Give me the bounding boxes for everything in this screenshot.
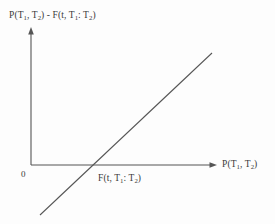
xlabel-sub2: 2 <box>251 163 254 170</box>
ylabel-f-sub2: 2 <box>89 14 92 21</box>
ylabel-p-prefix: P(T <box>9 10 24 20</box>
crossing-sub2: 2 <box>134 177 137 184</box>
xlabel-prefix: P(T <box>222 159 237 169</box>
x-intercept-annotation: F(t, T1: T2) <box>98 174 141 184</box>
y-axis-label: P(T1, T2) - F(t, T1: T2) <box>9 11 96 21</box>
payoff-line <box>40 53 212 215</box>
origin-label: 0 <box>21 170 26 179</box>
xlabel-mid: , T <box>240 159 251 169</box>
xlabel-sub1: 1 <box>237 163 240 170</box>
crossing-mid: : T <box>123 173 134 183</box>
ylabel-p-sub2: 2 <box>38 14 41 21</box>
ylabel-p-sub1: 1 <box>24 14 27 21</box>
ylabel-f-sub1: 1 <box>75 14 78 21</box>
figure-container: P(T1, T2) - F(t, T1: T2) P(T1, T2) 0 F(t… <box>0 0 275 224</box>
xlabel-suffix: ) <box>254 159 257 169</box>
crossing-suffix: ) <box>138 173 141 183</box>
diagram-canvas <box>0 0 275 224</box>
crossing-prefix: F(t, T <box>98 173 120 183</box>
x-axis-arrowhead <box>210 162 218 168</box>
crossing-sub1: 1 <box>120 177 123 184</box>
ylabel-p-mid: , T <box>27 10 38 20</box>
x-axis-label: P(T1, T2) <box>222 160 257 170</box>
ylabel-f-mid: : T <box>78 10 89 20</box>
y-axis-arrowhead <box>28 27 34 35</box>
ylabel-operator: - <box>44 10 52 20</box>
ylabel-f-prefix: F(t, T <box>53 10 75 20</box>
ylabel-f-suffix: ) <box>92 10 95 20</box>
